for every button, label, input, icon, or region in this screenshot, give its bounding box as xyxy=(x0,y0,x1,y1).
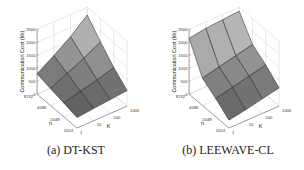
n-axis-label: n xyxy=(49,120,52,126)
caption-leewave-cl: (b) LEEWAVE-CL xyxy=(152,143,304,158)
surface-plot-dt-kst: 0500100015002000250010242048409681921101… xyxy=(0,0,152,140)
z-tick-label: 1000 xyxy=(178,66,188,71)
k-tick-label: 1 xyxy=(80,130,83,135)
z-tick-label: 2500 xyxy=(26,27,36,32)
surface-plot-leewave-cl: 0500100015002000250010242048409681921101… xyxy=(152,0,304,140)
n-tick-label: 4096 xyxy=(189,105,199,110)
caption-dt-kst: (a) DT-KST xyxy=(0,143,152,158)
n-tick-label: 8192 xyxy=(24,94,34,99)
k-axis-label: K xyxy=(107,123,111,129)
k-tick-label: 10 xyxy=(249,122,254,127)
z-tick-label: 2000 xyxy=(178,40,188,45)
z-tick-label: 1500 xyxy=(26,53,36,58)
k-tick-label: 1000 xyxy=(282,108,292,113)
z-tick-label: 0 xyxy=(33,92,36,97)
z-tick-label: 2500 xyxy=(178,27,188,32)
n-tick-label: 1024 xyxy=(216,128,226,133)
k-tick-label: 100 xyxy=(113,115,121,120)
k-tick-label: 1 xyxy=(232,130,235,135)
z-tick-label: 1000 xyxy=(26,66,36,71)
z-axis-label: Communication Cost (kb) xyxy=(19,30,25,92)
surface xyxy=(189,11,279,120)
n-axis-label: n xyxy=(201,120,204,126)
z-axis-label: Communication Cost (kb) xyxy=(171,30,177,92)
z-tick-label: 500 xyxy=(181,79,189,84)
n-tick-label: 1024 xyxy=(64,128,74,133)
k-tick-label: 100 xyxy=(265,115,273,120)
z-tick-label: 0 xyxy=(185,92,188,97)
chart-panel-b: 0500100015002000250010242048409681921101… xyxy=(152,0,304,140)
z-tick-label: 1500 xyxy=(178,53,188,58)
k-tick-label: 10 xyxy=(97,122,102,127)
n-tick-label: 8192 xyxy=(176,94,186,99)
k-axis-label: K xyxy=(259,123,263,129)
chart-panel-a: 0500100015002000250010242048409681921101… xyxy=(0,0,152,140)
z-tick-label: 500 xyxy=(29,79,37,84)
n-tick-label: 4096 xyxy=(37,105,47,110)
z-tick-label: 2000 xyxy=(26,40,36,45)
k-tick-label: 1000 xyxy=(130,108,140,113)
